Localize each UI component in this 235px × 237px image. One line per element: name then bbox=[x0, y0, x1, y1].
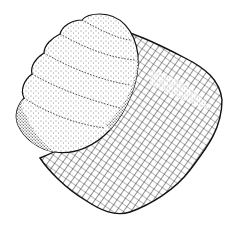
specimen-drawing bbox=[0, 0, 235, 237]
illustration-canvas bbox=[0, 0, 235, 237]
